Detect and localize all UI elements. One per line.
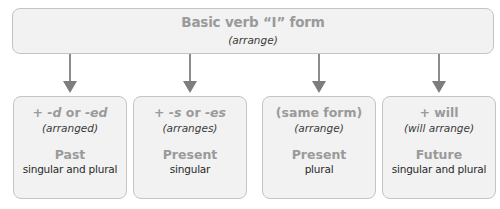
present-singular-rule: + -s or -es [134, 105, 246, 120]
arrow-down-icon [63, 54, 77, 93]
present-plural-rule: (same form) [263, 105, 375, 120]
future-form-box: + will (will arrange) Future singular an… [382, 96, 496, 199]
present-plural-example: (arrange) [263, 122, 375, 134]
past-tense-label: Past [14, 147, 126, 162]
arrow-down-icon [432, 54, 446, 93]
present-plural-tense-label: Present [263, 147, 375, 162]
base-form-title: Basic verb “I” form [13, 14, 493, 30]
base-form-example: (arrange) [13, 34, 493, 46]
future-rule: + will [383, 105, 495, 120]
future-tense-label: Future [383, 147, 495, 162]
base-form-box: Basic verb “I” form (arrange) [12, 8, 494, 54]
present-singular-tense-label: Present [134, 147, 246, 162]
past-form-box: + -d or -ed (arranged) Past singular and… [13, 96, 127, 199]
arrow-down-icon [183, 54, 197, 93]
past-example: (arranged) [14, 122, 126, 134]
present-plural-number-label: plural [263, 163, 375, 175]
present-singular-number-label: singular [134, 163, 246, 175]
past-rule: + -d or -ed [14, 105, 126, 120]
present-singular-example: (arranges) [134, 122, 246, 134]
past-number-label: singular and plural [14, 163, 126, 175]
arrow-down-icon [312, 54, 326, 93]
present-singular-form-box: + -s or -es (arranges) Present singular [133, 96, 247, 199]
future-number-label: singular and plural [383, 163, 495, 175]
future-example: (will arrange) [383, 122, 495, 134]
present-plural-form-box: (same form) (arrange) Present plural [262, 96, 376, 199]
